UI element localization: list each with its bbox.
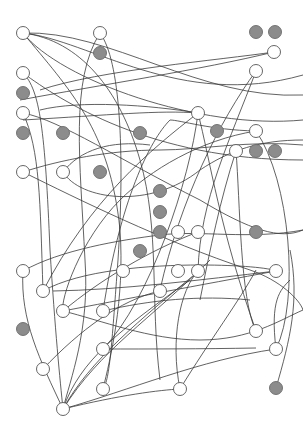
open-node: [94, 27, 107, 40]
open-node: [57, 166, 70, 179]
filled-node: [154, 206, 167, 219]
graph-edge: [180, 270, 256, 389]
open-node: [57, 305, 70, 318]
filled-node: [17, 87, 30, 100]
graph-edge: [160, 71, 256, 290]
open-node: [97, 343, 110, 356]
open-node: [172, 226, 185, 239]
graph-edge: [23, 33, 160, 380]
open-node: [192, 107, 205, 120]
graph-edge: [23, 73, 63, 409]
graph-diagram: [0, 0, 303, 432]
open-node: [230, 145, 243, 158]
filled-node: [250, 226, 263, 239]
filled-node: [57, 127, 70, 140]
graph-edge: [236, 151, 256, 331]
filled-node: [94, 47, 107, 60]
filled-node: [134, 127, 147, 140]
filled-node: [94, 166, 107, 179]
filled-node: [269, 26, 282, 39]
graph-edge: [63, 389, 180, 409]
graph-edge: [103, 298, 250, 311]
open-node: [270, 265, 283, 278]
open-node: [192, 265, 205, 278]
open-node: [250, 65, 263, 78]
open-node: [17, 27, 30, 40]
open-node: [268, 46, 281, 59]
open-node: [17, 265, 30, 278]
graph-svg: [0, 0, 303, 432]
filled-node: [154, 226, 167, 239]
graph-edge: [23, 33, 303, 95]
graph-edge: [23, 112, 198, 120]
filled-node: [250, 145, 263, 158]
open-node: [154, 285, 167, 298]
graph-edge: [198, 71, 256, 271]
filled-node: [270, 382, 283, 395]
filled-node: [17, 127, 30, 140]
open-node: [250, 125, 263, 138]
graph-edge: [23, 113, 43, 291]
open-node: [17, 67, 30, 80]
graph-edge: [256, 131, 289, 349]
filled-node: [269, 145, 282, 158]
open-node: [97, 383, 110, 396]
graph-edge: [63, 271, 276, 311]
open-node: [37, 363, 50, 376]
open-node: [172, 265, 185, 278]
graph-edge: [63, 260, 210, 409]
open-node: [250, 325, 263, 338]
open-node: [117, 265, 130, 278]
filled-node: [250, 26, 263, 39]
open-node: [174, 383, 187, 396]
graph-edge: [23, 33, 303, 85]
open-node: [17, 107, 30, 120]
open-node: [270, 343, 283, 356]
nodes-layer: [17, 26, 283, 416]
filled-node: [134, 245, 147, 258]
filled-node: [211, 125, 224, 138]
edges-layer: [20, 33, 303, 409]
open-node: [97, 305, 110, 318]
filled-node: [17, 323, 30, 336]
open-node: [37, 285, 50, 298]
graph-edge: [103, 348, 256, 349]
filled-node: [154, 185, 167, 198]
open-node: [192, 226, 205, 239]
open-node: [17, 166, 30, 179]
graph-edge: [63, 349, 276, 409]
open-node: [57, 403, 70, 416]
graph-edge: [63, 144, 150, 172]
